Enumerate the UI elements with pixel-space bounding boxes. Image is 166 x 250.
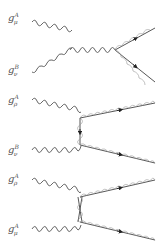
label-d1-top: gAμ [8, 12, 18, 25]
label-d3-bottom: gAμ [8, 223, 18, 236]
feynman-diagrams-canvas [0, 0, 166, 250]
gluon-line-in-1 [32, 98, 81, 112]
gluon-line-in-2 [32, 146, 81, 153]
label-d1-bottom: gBν [8, 64, 17, 77]
label-d2-bottom: gBν [8, 144, 17, 157]
gluon-propagator [70, 48, 115, 53]
gluon-line-in-1 [32, 20, 72, 32]
gluon-line-in-2 [32, 225, 81, 232]
gluon-line-in-1 [32, 178, 81, 192]
gluon-line-in-2 [32, 48, 72, 73]
label-d3-top: gAρ [8, 173, 17, 186]
diagram-s-channel [32, 20, 155, 85]
label-d2-top: gAρ [8, 94, 17, 107]
diagram-t-channel [32, 98, 155, 163]
diagram-u-channel [32, 178, 155, 240]
